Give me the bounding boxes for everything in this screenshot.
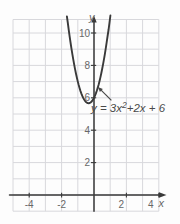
x-tick-label: -4 [25, 199, 34, 210]
grid [13, 20, 159, 212]
x-tick-label: 4 [148, 199, 154, 210]
y-tick-label: 8 [84, 60, 90, 71]
equation-annotation: y = 3x2+2x + 6 [90, 87, 166, 114]
graph-figure: -4-224 x 246810 y y = 3x2+2x + 6 [0, 0, 180, 224]
x-tick-labels: -4-224 [25, 199, 154, 210]
equation-pre: y = 3x [90, 102, 123, 114]
x-axis-label: x [158, 197, 165, 209]
equation-post: +2x + 6 [127, 102, 166, 114]
y-tick-label: 10 [79, 28, 91, 39]
x-tick-label: 2 [119, 199, 125, 210]
x-tick-label: -2 [57, 199, 66, 210]
y-tick-label: 2 [84, 157, 90, 168]
y-tick-label: 4 [84, 125, 90, 136]
equation-label: y = 3x2+2x + 6 [90, 100, 166, 114]
parabola-graph-svg: -4-224 x 246810 y y = 3x2+2x + 6 [0, 0, 180, 224]
